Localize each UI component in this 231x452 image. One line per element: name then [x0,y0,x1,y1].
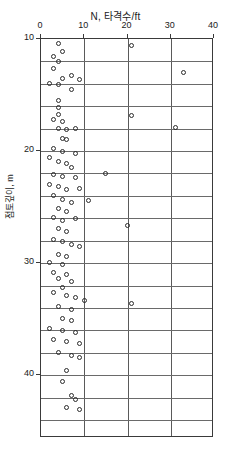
x-axis-tick-label: 10 [68,20,98,30]
gridline-horizontal [41,286,212,287]
y-axis-tick [36,374,40,375]
data-point [181,70,186,75]
data-point [60,328,65,333]
data-point [51,337,56,342]
x-axis-tick-label: 30 [155,20,185,30]
data-point [60,174,65,179]
data-point [129,301,134,306]
data-point [60,379,65,384]
data-point [56,112,61,117]
data-point [56,226,61,231]
data-point [73,216,78,221]
data-point [47,260,52,265]
gridline-horizontal [41,398,212,399]
data-point [69,353,74,358]
data-point [69,165,74,170]
data-point [73,126,78,131]
data-point [47,182,52,187]
y-axis-tick-label: 30 [10,256,34,266]
data-point [51,290,56,295]
gridline-horizontal [41,420,212,421]
gridline-horizontal [41,106,212,107]
x-axis-tick [170,34,171,38]
data-point [73,330,78,335]
data-point [47,326,52,331]
data-point [60,76,65,81]
data-point [69,200,74,205]
chart-container: N, 타격수/ft 점토깊이, m 01020304010203040 [0,0,231,452]
data-point [64,405,69,410]
data-point [51,66,56,71]
data-point [77,186,82,191]
gridline-horizontal [41,84,212,85]
data-point [51,117,56,122]
y-axis-tick-label: 40 [10,368,34,378]
data-point [60,197,65,202]
data-point [56,41,61,46]
x-axis-tick [83,34,84,38]
data-point [73,151,78,156]
data-point [77,244,82,249]
data-point [60,119,65,124]
gridline-horizontal [41,263,212,264]
data-point [64,254,69,259]
gridline-horizontal [41,173,212,174]
data-point [73,175,78,180]
data-point [69,87,74,92]
data-point [173,125,178,130]
plot-area [40,38,213,437]
data-point [82,298,87,303]
y-axis-tick [36,38,40,39]
gridline-vertical [171,39,172,436]
gridline-horizontal [41,241,212,242]
gridline-vertical [128,39,129,436]
data-point [69,242,74,247]
x-axis-tick-label: 40 [198,20,228,30]
data-point [56,206,61,211]
data-point [56,276,61,281]
data-point [51,172,56,177]
data-point [60,239,65,244]
x-axis-tick-label: 0 [25,20,55,30]
data-point [64,187,69,192]
data-point [77,355,82,360]
data-point [64,272,69,277]
y-axis-tick [36,150,40,151]
data-point [56,59,61,64]
gridline-horizontal [41,196,212,197]
y-axis-tick-label: 20 [10,144,34,154]
data-point [56,98,61,103]
data-point [64,127,69,132]
data-point [77,407,82,412]
data-point [64,368,69,373]
x-axis-tick [40,34,41,38]
data-point [103,171,108,176]
data-point [51,193,56,198]
y-axis-tick-label: 10 [10,32,34,42]
data-point [129,43,134,48]
gridline-horizontal [41,330,212,331]
gridline-horizontal [41,353,212,354]
y-axis-tick [36,262,40,263]
x-axis-tick [213,34,214,38]
data-point [69,279,74,284]
data-point [77,77,82,82]
data-point [73,397,78,402]
data-point [51,54,56,59]
data-point [56,82,61,87]
gridline-horizontal [41,61,212,62]
data-point [60,285,65,290]
data-point [60,262,65,267]
y-axis-label: 점토깊이, m [3,147,16,247]
gridline-horizontal [41,218,212,219]
data-point [125,223,130,228]
data-point [56,184,61,189]
gridline-horizontal [41,151,212,152]
data-point [47,81,52,86]
data-point [56,159,61,164]
data-point [129,113,134,118]
data-point [64,339,69,344]
data-point [47,155,52,160]
data-point [56,350,61,355]
data-point [69,307,74,312]
